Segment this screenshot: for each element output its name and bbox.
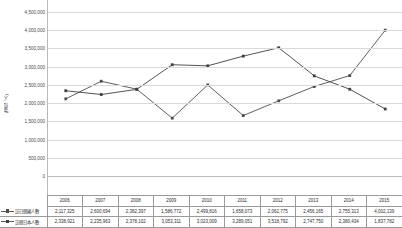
gridline bbox=[48, 121, 402, 122]
data-point-marker bbox=[348, 74, 351, 77]
table-cell-value: 2,380,434 bbox=[331, 217, 367, 228]
table-cell-value: 3,023,009 bbox=[189, 217, 225, 228]
gridline bbox=[48, 176, 402, 177]
table-header-year: 2006 bbox=[47, 196, 83, 207]
gridline bbox=[48, 140, 402, 141]
data-point-marker bbox=[64, 97, 67, 100]
data-point-marker bbox=[242, 55, 245, 58]
table-cell-value: 2,338,921 bbox=[47, 217, 83, 228]
chart-page: (單位：人) 0500,0001,000,0001,500,0002,000,0… bbox=[0, 0, 402, 228]
legend-series-name: 訪日韓國人數 bbox=[15, 209, 39, 214]
data-point-marker bbox=[135, 88, 138, 91]
table-cell-value: 2,117,325 bbox=[47, 206, 83, 217]
table-header-row: 2006200720082009201020112012201320142015 bbox=[0, 196, 402, 207]
table-cell-value: 1,586,772 bbox=[154, 206, 190, 217]
legend-entry-1: 訪日韓國人數 bbox=[0, 206, 47, 217]
data-point-marker bbox=[100, 93, 103, 96]
table-header-year: 2014 bbox=[331, 196, 367, 207]
gridline bbox=[48, 158, 402, 159]
table-header-year: 2013 bbox=[296, 196, 332, 207]
y-tick-label: 1,000,000 bbox=[12, 137, 47, 142]
gridline bbox=[48, 48, 402, 49]
table-cell-value: 1,837,782 bbox=[367, 217, 402, 228]
y-tick-label: 2,500,000 bbox=[12, 82, 47, 87]
series-line-1 bbox=[66, 30, 386, 118]
y-tick-label: 3,500,000 bbox=[12, 46, 47, 51]
gridline bbox=[48, 67, 402, 68]
table-row: 訪日韓國人數2,117,3252,600,6942,382,3971,586,7… bbox=[0, 206, 402, 217]
y-tick-label: 1,500,000 bbox=[12, 119, 47, 124]
legend-series-name: 訪韓日本人數 bbox=[15, 220, 39, 225]
legend-entry-2: 訪韓日本人數 bbox=[0, 217, 47, 228]
table-cell-value: 3,053,311 bbox=[154, 217, 190, 228]
chart-plot-area: (單位：人) 0500,0001,000,0001,500,0002,000,0… bbox=[0, 0, 402, 196]
gridline bbox=[48, 30, 402, 31]
table-cell-value: 2,235,963 bbox=[83, 217, 119, 228]
table-cell-value: 4,002,139 bbox=[367, 206, 402, 217]
data-point-marker bbox=[171, 117, 174, 120]
legend-marker-icon bbox=[1, 219, 14, 224]
table-corner-cell bbox=[0, 196, 47, 207]
gridline bbox=[48, 103, 402, 104]
table-cell-value: 2,600,694 bbox=[83, 206, 119, 217]
gridline bbox=[48, 12, 402, 13]
legend-marker-icon bbox=[1, 209, 14, 214]
table-cell-value: 3,289,051 bbox=[225, 217, 261, 228]
table-cell-value: 2,456,165 bbox=[296, 206, 332, 217]
table-header-year: 2010 bbox=[189, 196, 225, 207]
data-point-marker bbox=[313, 74, 316, 77]
table-header-year: 2008 bbox=[118, 196, 154, 207]
data-table-wrap: 2006200720082009201020112012201320142015… bbox=[0, 195, 402, 228]
table-header-year: 2012 bbox=[260, 196, 296, 207]
data-table: 2006200720082009201020112012201320142015… bbox=[0, 195, 402, 228]
data-point-marker bbox=[242, 114, 245, 117]
table-cell-value: 2,755,313 bbox=[331, 206, 367, 217]
plot-grid bbox=[47, 0, 402, 196]
table-cell-value: 2,062,775 bbox=[260, 206, 296, 217]
y-tick-label: 4,500,000 bbox=[12, 10, 47, 15]
y-tick-label: 4,000,000 bbox=[12, 28, 47, 33]
table-cell-value: 2,499,816 bbox=[189, 206, 225, 217]
y-tick-label: 0 bbox=[12, 174, 47, 179]
data-point-marker bbox=[64, 89, 67, 92]
table-cell-value: 1,658,073 bbox=[225, 206, 261, 217]
data-point-marker bbox=[384, 108, 387, 111]
y-tick-label: 2,000,000 bbox=[12, 101, 47, 106]
table-header-year: 2011 bbox=[225, 196, 261, 207]
y-tick-label: 500,000 bbox=[12, 155, 47, 160]
table-header-year: 2007 bbox=[83, 196, 119, 207]
table-cell-value: 2,747,750 bbox=[296, 217, 332, 228]
table-cell-value: 2,378,102 bbox=[118, 217, 154, 228]
gridline bbox=[48, 85, 402, 86]
table-cell-value: 3,518,792 bbox=[260, 217, 296, 228]
data-point-marker bbox=[100, 80, 103, 83]
table-cell-value: 2,382,397 bbox=[118, 206, 154, 217]
y-axis-tick-labels: 0500,0001,000,0001,500,0002,000,0002,500… bbox=[12, 0, 47, 196]
table-row: 訪韓日本人數2,338,9212,235,9632,378,1023,053,3… bbox=[0, 217, 402, 228]
table-header-year: 2015 bbox=[367, 196, 402, 207]
data-point-marker bbox=[277, 99, 280, 102]
data-point-marker bbox=[348, 88, 351, 91]
table-header-year: 2009 bbox=[154, 196, 190, 207]
y-tick-label: 3,000,000 bbox=[12, 64, 47, 69]
